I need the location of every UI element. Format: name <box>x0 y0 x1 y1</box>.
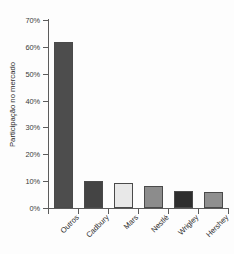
x-axis-label-nestlé: Nestlé <box>149 213 170 234</box>
y-tick-label: 30% <box>26 123 41 132</box>
x-axis-labels: OutrosCadburyMarsNestléWrigleyHershey <box>48 209 228 254</box>
bar-cell <box>198 20 228 208</box>
bar-cell <box>168 20 198 208</box>
x-axis-label-outros: Outros <box>58 213 80 235</box>
bar-cell <box>48 20 78 208</box>
y-tick-label: 50% <box>26 69 41 78</box>
y-axis-title: Participação no mercado <box>6 0 20 208</box>
bar-series <box>48 20 228 208</box>
x-tick-mark <box>228 208 229 214</box>
y-tick-label: 20% <box>26 150 41 159</box>
x-axis-label-cadbury: Cadbury <box>84 213 110 239</box>
bar-outros <box>54 42 73 209</box>
plot-area: 0%10%20%30%40%50%60%70% <box>48 20 228 208</box>
bar-chart: Participação no mercado 0%10%20%30%40%50… <box>0 0 234 254</box>
bar-nestlé <box>144 186 163 208</box>
y-tick-label: 10% <box>26 177 41 186</box>
y-axis-title-text: Participação no mercado <box>9 61 18 146</box>
bar-hershey <box>204 192 223 208</box>
bar-wrigley <box>174 191 193 208</box>
bar-cell <box>138 20 168 208</box>
x-axis-label-hershey: Hershey <box>204 213 230 239</box>
x-axis-label-mars: Mars <box>122 213 140 231</box>
bar-cell <box>78 20 108 208</box>
y-tick-label: 0% <box>30 204 40 213</box>
x-axis-label-wrigley: Wrigley <box>176 213 200 237</box>
y-tick-label: 70% <box>26 16 41 25</box>
y-tick-label: 60% <box>26 42 41 51</box>
bar-mars <box>114 183 133 208</box>
bar-cadbury <box>84 181 103 208</box>
bar-cell <box>108 20 138 208</box>
y-tick-label: 40% <box>26 96 41 105</box>
